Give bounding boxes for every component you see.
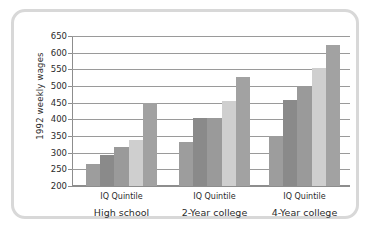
- y-tick-mark: [68, 169, 72, 170]
- bar[interactable]: [283, 100, 297, 186]
- y-tick-label: 600: [51, 48, 67, 58]
- y-tick-label: 650: [51, 31, 67, 41]
- y-tick-label: 200: [51, 181, 67, 191]
- bar-group: [86, 36, 160, 186]
- x-axis-quintile-label: IQ Quintile: [245, 192, 365, 201]
- y-tick-mark: [68, 186, 72, 187]
- bar[interactable]: [179, 142, 193, 186]
- y-tick-mark: [68, 103, 72, 104]
- x-axis-group-label: 4-Year college: [245, 207, 365, 218]
- chart-frame: 1992 weekly wages 2002503003504004505005…: [11, 9, 359, 219]
- gridline: [72, 186, 350, 187]
- bar[interactable]: [129, 140, 143, 186]
- bar[interactable]: [114, 147, 128, 186]
- bar[interactable]: [100, 155, 114, 186]
- bar[interactable]: [86, 164, 100, 186]
- y-tick-mark: [68, 153, 72, 154]
- bar[interactable]: [269, 136, 283, 186]
- y-tick-mark: [68, 136, 72, 137]
- y-tick-mark: [68, 119, 72, 120]
- y-tick-label: 550: [51, 64, 67, 74]
- y-tick-mark: [68, 53, 72, 54]
- y-axis-line: [72, 36, 73, 186]
- bar[interactable]: [193, 118, 207, 186]
- bar[interactable]: [236, 77, 250, 186]
- bar[interactable]: [143, 103, 157, 186]
- bar[interactable]: [312, 68, 326, 186]
- y-axis-title: 1992 weekly wages: [35, 36, 45, 156]
- y-tick-mark: [68, 36, 72, 37]
- bar[interactable]: [222, 101, 236, 186]
- plot-area: 200250300350400450500550600650: [72, 36, 350, 186]
- y-tick-mark: [68, 86, 72, 87]
- y-tick-mark: [68, 69, 72, 70]
- bar-group: [269, 36, 343, 186]
- bar-group: [179, 36, 253, 186]
- y-tick-label: 500: [51, 81, 67, 91]
- y-tick-label: 350: [51, 131, 67, 141]
- y-tick-label: 450: [51, 98, 67, 108]
- chart-canvas: 1992 weekly wages 2002503003504004505005…: [14, 12, 362, 222]
- y-tick-label: 250: [51, 164, 67, 174]
- bar[interactable]: [207, 118, 221, 186]
- y-tick-label: 300: [51, 148, 67, 158]
- bar[interactable]: [326, 45, 340, 186]
- y-tick-label: 400: [51, 114, 67, 124]
- bar[interactable]: [297, 87, 311, 186]
